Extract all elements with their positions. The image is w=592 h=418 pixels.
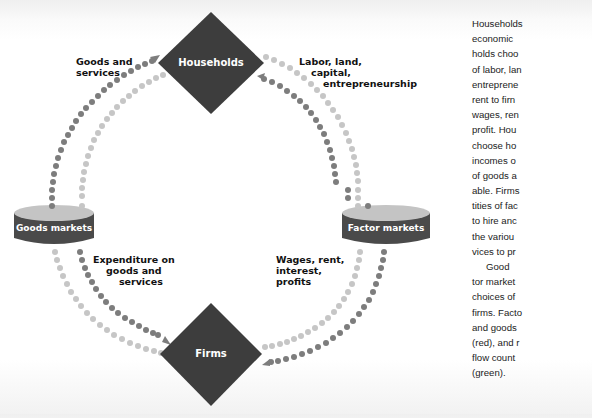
income-flow-dots-top-right <box>261 76 351 201</box>
explanatory-text: Households economic holds choo of labor,… <box>472 16 592 381</box>
arrow-to-firms-icon <box>162 336 171 345</box>
firms-label: Firms <box>171 348 251 359</box>
circular-flow-diagram: Households Firms Goods markets Factor ma… <box>0 0 440 414</box>
incomes-label: Wages, rent, interest, profits <box>276 254 344 287</box>
factor-markets-label: Factor markets <box>342 223 430 233</box>
money-flow-dots-top-left <box>79 72 166 199</box>
households-label: Households <box>171 57 251 68</box>
expenditure-label: Expenditure on goods and services <box>93 254 175 287</box>
goods-flow-dots-top-left <box>49 58 155 201</box>
arrow-factors-to-firms-icon <box>262 359 270 366</box>
factors-of-production-label: Labor, land, capital, entrepreneurship <box>299 56 417 89</box>
goods-and-services-label: Goods and services <box>76 56 133 78</box>
goods-markets-label: Goods markets <box>14 223 94 233</box>
